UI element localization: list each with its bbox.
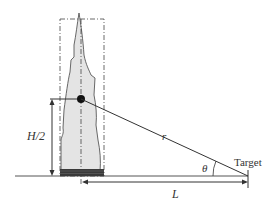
- target-label: Target: [234, 156, 262, 168]
- arrow-up-icon: [50, 99, 55, 105]
- angle-label: θ: [202, 162, 208, 174]
- flame-radiation-diagram: H/2 r θ Target L: [0, 0, 277, 206]
- angle-arc: [213, 161, 216, 176]
- arrow-right-icon: [242, 180, 248, 185]
- fuel-bed: [60, 169, 104, 176]
- distance-r-label: r: [162, 130, 167, 142]
- arrow-down-icon: [50, 170, 55, 176]
- distance-L-label: L: [171, 187, 179, 201]
- arrow-left-icon: [82, 180, 88, 185]
- half-height-label: H/2: [26, 129, 45, 143]
